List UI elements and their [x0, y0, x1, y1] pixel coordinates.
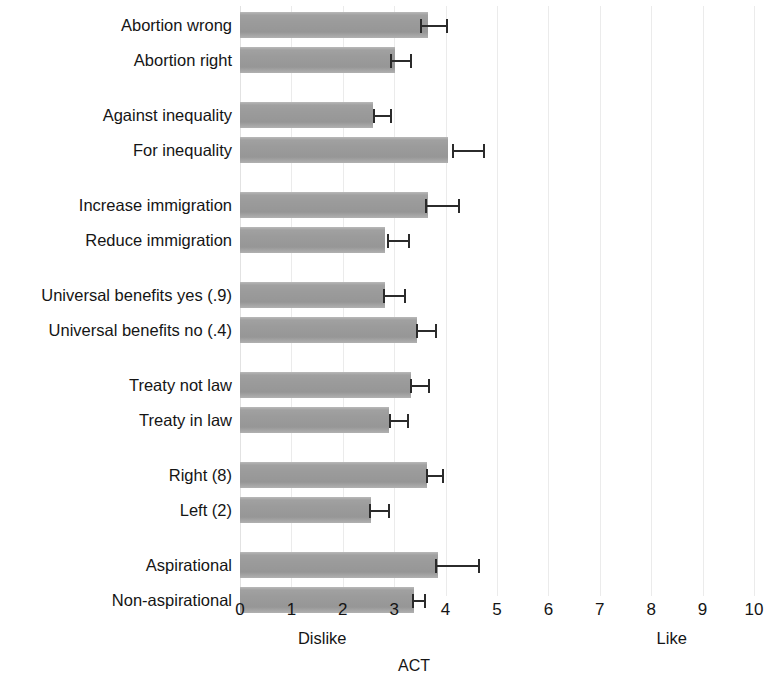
error-bar [412, 600, 426, 601]
bar [240, 12, 428, 38]
category-label: Increase immigration [0, 197, 232, 213]
error-bar-cap-low [452, 144, 454, 158]
bar-row [240, 137, 754, 163]
bar [240, 192, 428, 218]
error-bar-cap-low [373, 109, 375, 123]
error-bar [426, 475, 443, 476]
category-label: Abortion right [0, 52, 232, 68]
error-bar [435, 565, 479, 566]
bar-row [240, 102, 754, 128]
error-bar [425, 205, 460, 206]
x-tick-label-2: 2 [323, 600, 363, 620]
x-tick-label-8: 8 [631, 600, 671, 620]
error-bar-cap-high [483, 144, 485, 158]
bar-row [240, 227, 754, 253]
x-tick-label-10: 10 [734, 600, 774, 620]
error-bar-cap-low [420, 19, 422, 33]
error-bar-line [410, 385, 431, 387]
error-bar [452, 150, 485, 151]
category-label: Abortion wrong [0, 17, 232, 33]
bar-row [240, 372, 754, 398]
bar-row [240, 407, 754, 433]
error-bar [416, 330, 438, 331]
error-bar-cap-low [389, 414, 391, 428]
bar [240, 317, 417, 343]
error-bar-cap-high [442, 469, 444, 483]
error-bar-line [387, 240, 410, 242]
bar [240, 102, 373, 128]
category-label: Treaty in law [0, 412, 232, 428]
bar-row [240, 552, 754, 578]
category-label: Universal benefits no (.4) [0, 322, 232, 338]
error-bar-cap-high [446, 19, 448, 33]
bar [240, 552, 438, 578]
bar [240, 47, 395, 73]
error-bar-cap-low [387, 234, 389, 248]
error-bar [390, 60, 412, 61]
bar-row [240, 282, 754, 308]
error-bar [387, 240, 410, 241]
x-tick-label-3: 3 [374, 600, 414, 620]
category-label: Left (2) [0, 502, 232, 518]
bar [240, 407, 389, 433]
error-bar-cap-high [408, 234, 410, 248]
error-bar-cap-low [416, 324, 418, 338]
error-bar [420, 25, 448, 26]
bar-row [240, 12, 754, 38]
plot-area [240, 6, 754, 596]
x-tick-label-6: 6 [528, 600, 568, 620]
error-bar-cap-low [426, 469, 428, 483]
bar [240, 227, 385, 253]
gridline-10 [754, 6, 755, 596]
category-label: Against inequality [0, 107, 232, 123]
axis-annotation-like: Like [612, 629, 732, 648]
error-bar-cap-high [428, 379, 430, 393]
error-bar-cap-low [369, 504, 371, 518]
error-bar-cap-high [390, 109, 392, 123]
x-axis-title-text: ACT [398, 657, 430, 675]
error-bar-line [383, 295, 406, 297]
error-bar-line [425, 205, 460, 207]
category-label: Reduce immigration [0, 232, 232, 248]
category-label: Universal benefits yes (.9) [0, 287, 232, 303]
error-bar [369, 510, 391, 511]
error-bar [410, 385, 431, 386]
error-bar-line [435, 565, 479, 567]
bar [240, 372, 411, 398]
error-bar-cap-high [407, 414, 409, 428]
category-label: Non-aspirational [0, 592, 232, 608]
axis-annotation-dislike: Dislike [262, 629, 382, 648]
bar-row [240, 47, 754, 73]
x-tick-label-0: 0 [220, 600, 260, 620]
bar-row [240, 317, 754, 343]
x-tick-label-1: 1 [271, 600, 311, 620]
bar [240, 137, 448, 163]
x-tick-label-9: 9 [683, 600, 723, 620]
error-bar [373, 115, 392, 116]
error-bar-cap-low [410, 379, 412, 393]
error-bar [389, 420, 409, 421]
bar-row [240, 192, 754, 218]
bar-row [240, 462, 754, 488]
error-bar-line [369, 510, 391, 512]
bar [240, 282, 385, 308]
error-bar-cap-high [410, 54, 412, 68]
horizontal-bar-chart: Abortion wrongAbortion rightAgainst ineq… [0, 0, 780, 681]
x-tick-label-5: 5 [477, 600, 517, 620]
error-bar [383, 295, 406, 296]
error-bar-cap-low [390, 54, 392, 68]
error-bar-cap-high [388, 504, 390, 518]
x-tick-label-4: 4 [426, 600, 466, 620]
category-label: Right (8) [0, 467, 232, 483]
bar [240, 462, 427, 488]
error-bar-cap-high [458, 199, 460, 213]
error-bar-cap-high [478, 559, 480, 573]
category-label: For inequality [0, 142, 232, 158]
error-bar-line [420, 25, 448, 27]
error-bar-cap-high [404, 289, 406, 303]
category-label: Aspirational [0, 557, 232, 573]
category-label: Treaty not law [0, 377, 232, 393]
error-bar-line [390, 60, 412, 62]
error-bar-line [416, 330, 438, 332]
error-bar-line [452, 150, 485, 152]
